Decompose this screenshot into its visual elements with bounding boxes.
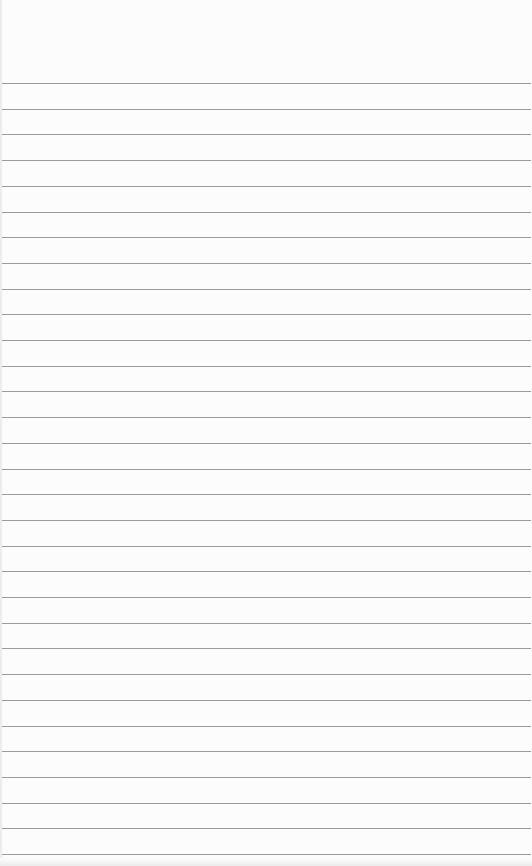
ruled-line — [2, 340, 531, 341]
ruled-line — [2, 700, 531, 701]
ruled-line — [2, 571, 531, 572]
ruled-line — [2, 854, 531, 855]
ruled-line — [2, 546, 531, 547]
ruled-line — [2, 443, 531, 444]
ruled-line — [2, 623, 531, 624]
ruled-line — [2, 237, 531, 238]
ruled-line — [2, 674, 531, 675]
ruled-line — [2, 597, 531, 598]
ruled-line — [2, 366, 531, 367]
ruled-line — [2, 134, 531, 135]
lined-paper — [0, 0, 532, 866]
ruled-line — [2, 160, 531, 161]
ruled-line — [2, 391, 531, 392]
ruled-line — [2, 777, 531, 778]
paper-bottom-edge-shadow — [0, 858, 532, 866]
ruled-line — [2, 648, 531, 649]
ruled-line — [2, 751, 531, 752]
ruled-line — [2, 520, 531, 521]
ruled-line — [2, 314, 531, 315]
ruled-line — [2, 469, 531, 470]
ruled-line — [2, 186, 531, 187]
ruled-line — [2, 83, 531, 84]
ruled-line — [2, 289, 531, 290]
ruled-line — [2, 828, 531, 829]
ruled-line — [2, 109, 531, 110]
ruled-line — [2, 263, 531, 264]
ruled-line — [2, 417, 531, 418]
paper-left-edge-shadow — [0, 0, 3, 866]
ruled-line — [2, 494, 531, 495]
ruled-line — [2, 212, 531, 213]
ruled-line — [2, 726, 531, 727]
ruled-line — [2, 803, 531, 804]
